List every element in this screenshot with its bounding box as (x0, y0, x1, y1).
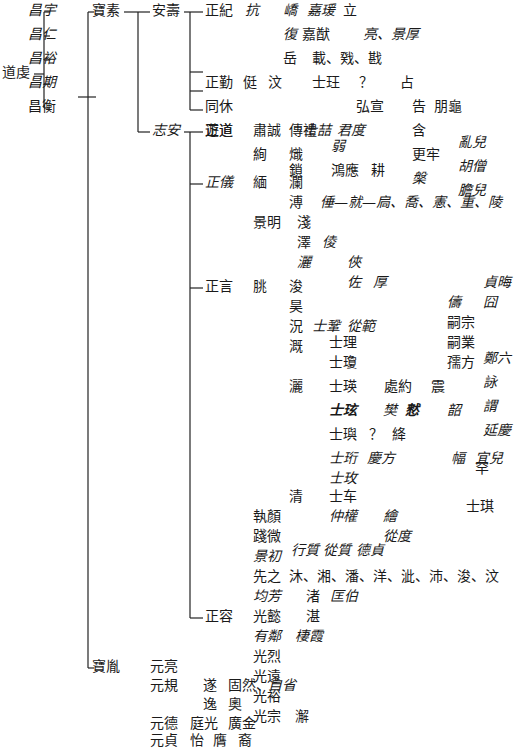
person-node-xie: 澥 (295, 708, 309, 724)
person-node-xia: 俠 (347, 254, 361, 270)
person-node-congfan: 從範 (347, 318, 375, 334)
person-node-chou: 儔 (447, 294, 461, 310)
person-node-baoyin: 寶胤 (92, 658, 120, 674)
person-node-yanqing: 延慶 (483, 422, 511, 438)
person-node-zhu: 渚 (306, 588, 320, 604)
person-node-shixuan: 士玹 (329, 402, 357, 418)
person-node-puchain: 倕—就—扃、喬、憲、重、陵 (320, 194, 502, 210)
person-node-hou: 倰 (322, 234, 336, 250)
person-node-jiong: 囧 (483, 294, 497, 310)
person-node-zhian: 志安 (152, 122, 180, 138)
person-node-qian: 淺 (297, 214, 311, 230)
person-node-zhan: 占 (400, 74, 414, 90)
person-node-siye: 嗣業 (447, 334, 475, 350)
person-node-shiwang: 士玨 (312, 74, 340, 90)
person-node-gao: 告 (412, 98, 426, 114)
person-node-hui: 繪 (383, 508, 397, 524)
person-node-shiche: 士车 (329, 488, 357, 504)
person-node-xianzhi: 先之 (253, 568, 281, 584)
person-node-zhengyi: 正儀 (205, 174, 233, 190)
person-node-guanglie: 光烈 (253, 648, 281, 664)
person-node-baosu: 寶素 (92, 2, 120, 18)
person-node-hongxuan: 弘宣 (356, 98, 384, 114)
person-node-changyu2: 昌裕 (28, 50, 56, 66)
person-node-guangzong: 光宗 (253, 708, 281, 724)
person-node-fu: 復 (283, 26, 297, 42)
person-node-yi: 逸 (203, 696, 217, 712)
person-node-shixuan2: 士玫 (329, 470, 357, 486)
person-node-zhao: 韶 (447, 402, 461, 418)
person-node-xianzhi_sons: 沐、湘、潘、洋、泚、沛、浚、汶 (289, 568, 499, 584)
person-node-zhengliu: 鄭六 (483, 350, 511, 366)
person-node-youdao: 遊道 (205, 122, 233, 138)
person-node-shili: 士理 (329, 334, 357, 350)
person-node-daoqian: 道虔 (2, 64, 30, 80)
person-node-sui: 遂 (203, 677, 217, 693)
person-node-qing: 清 (289, 488, 303, 504)
person-node-zai: 載、戣、戡 (312, 50, 382, 66)
person-node-zhengji: 正紀 (205, 2, 233, 18)
person-node-lan: 瀾 (289, 174, 303, 190)
person-node-qiao: 嶠 (283, 2, 297, 18)
person-node-guangyi: 光懿 (253, 608, 281, 624)
person-node-anshou: 安壽 (152, 2, 180, 18)
person-node-shiju: 士鞏 (312, 318, 340, 334)
person-node-yuanzhen: 元貞 (150, 732, 178, 748)
person-node-q1: ？ (359, 74, 373, 90)
person-node-yong2: 膺 (213, 732, 227, 748)
person-node-yuangui: 元規 (150, 677, 178, 693)
person-node-jiayuan: 嘉瑗 (307, 2, 335, 18)
person-node-sizong: 嗣宗 (447, 314, 475, 330)
person-node-qingfang: 慶方 (367, 450, 395, 466)
person-node-junshu: 君度 (337, 122, 365, 138)
person-node-yue: 岳 (283, 50, 297, 66)
person-node-zhenhui: 貞晦 (483, 274, 511, 290)
person-node-geng: 耕 (371, 162, 385, 178)
person-node-yuande: 元德 (150, 715, 178, 731)
person-node-fu2: 幅 (451, 450, 465, 466)
person-node-q2: ？ (369, 426, 383, 442)
person-node-brace_names: 行質 從質 德貞 (291, 542, 384, 558)
person-node-guangjin: 廣金 (228, 715, 256, 731)
person-node-liang: 亮、景厚 (363, 26, 419, 42)
person-node-yu: 裔 (238, 732, 252, 748)
person-node-wei: 謂 (483, 398, 497, 414)
person-node-shiying: 士瑛 (329, 378, 357, 394)
person-node-zhan2: 湛 (306, 608, 320, 624)
person-node-yin: 憖 (405, 402, 419, 418)
person-node-zuo: 佐 (347, 274, 361, 290)
person-node-changyu: 昌宇 (28, 2, 56, 18)
person-node-jia: 灑 (289, 378, 303, 394)
person-node-zhengyan: 正言 (205, 278, 233, 294)
person-node-ze: 澤 (297, 234, 311, 250)
person-node-gengnian: 更牢 (412, 146, 440, 162)
person-node-jianwei: 踐微 (253, 528, 281, 544)
person-node-jingming: 景明 (253, 214, 281, 230)
person-node-changqi: 昌期 (28, 74, 56, 90)
person-node-changren: 昌仁 (28, 26, 56, 42)
person-node-zhongquan: 仲權 (329, 508, 357, 524)
person-node-li: 立 (343, 2, 357, 18)
person-node-houhou: 厚 (373, 274, 387, 290)
person-node-sa: 灑 (297, 254, 311, 270)
person-node-qixia: 棲霞 (295, 628, 323, 644)
person-node-hongying: 鴻應 (331, 162, 359, 178)
person-node-shiqiong: 士瓊 (329, 354, 357, 370)
person-node-kuangbo: 匡伯 (330, 588, 358, 604)
person-node-shiyu: 士璵 (329, 426, 357, 442)
person-node-han2: 罕 (475, 460, 489, 476)
person-node-junfang: 均芳 (253, 588, 281, 604)
person-node-shiqi: 士琪 (466, 498, 494, 514)
person-node-jiang: 絳 (392, 426, 406, 442)
person-node-youlin: 有鄰 (253, 628, 281, 644)
person-node-hao: 昊 (289, 298, 303, 314)
person-node-huzeng: 胡僧 (458, 158, 486, 174)
person-node-tiao: 朓 (253, 278, 267, 294)
person-node-luaner: 亂兒 (458, 134, 486, 150)
person-node-chuyue: 處約 (384, 378, 412, 394)
person-node-yong: 詠 (483, 374, 497, 390)
person-node-xun: 絢 (253, 146, 267, 162)
person-node-yi2: 怡 (190, 732, 204, 748)
person-node-fan: 樊 (383, 402, 397, 418)
